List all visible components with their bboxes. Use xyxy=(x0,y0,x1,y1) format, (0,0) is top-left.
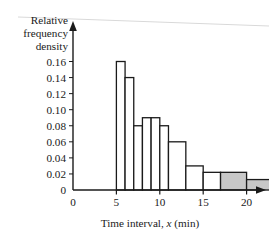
y-tick-label: 0.16 xyxy=(46,56,66,68)
histogram-bar xyxy=(221,172,247,190)
y-axis-label-line-2: frequency xyxy=(23,27,68,39)
x-tick-label: 5 xyxy=(114,196,120,208)
histogram-bar xyxy=(142,118,151,190)
histogram-figure: Relative frequency density 00.020.040.06… xyxy=(0,0,269,233)
y-tick-label: 0.06 xyxy=(46,136,66,148)
histogram-bar xyxy=(203,172,220,190)
y-tick-label: 0 xyxy=(60,184,66,196)
histogram-bar xyxy=(151,118,160,190)
histogram-bar xyxy=(125,78,134,190)
y-axis-label-line-3: density xyxy=(36,40,69,52)
x-axis-title: Time interval, x (min) xyxy=(101,217,200,230)
histogram-bar xyxy=(160,126,169,190)
y-tick-label: 0.02 xyxy=(46,168,66,180)
x-tick-label: 15 xyxy=(198,196,210,208)
x-tick-label: 10 xyxy=(154,196,166,208)
histogram-bar xyxy=(168,142,185,190)
histogram-bar xyxy=(116,62,125,191)
histogram-bar xyxy=(134,126,143,190)
y-tick-label: 0.08 xyxy=(46,120,66,132)
y-tick-label: 0.14 xyxy=(46,72,66,84)
y-tick-label: 0.10 xyxy=(46,104,66,116)
histogram-bar xyxy=(186,166,203,190)
y-axis-label-line-1: Relative xyxy=(31,14,68,26)
x-tick-label: 20 xyxy=(241,196,253,208)
x-tick-label: 0 xyxy=(70,196,76,208)
y-tick-label: 0.12 xyxy=(46,88,66,100)
y-tick-label: 0.04 xyxy=(46,152,66,164)
